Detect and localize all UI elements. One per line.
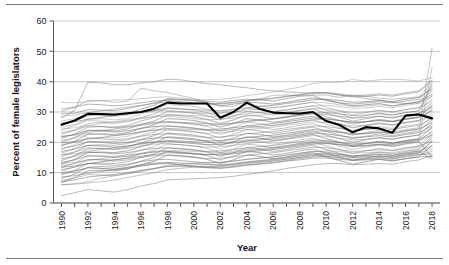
x-tick-label: 1992	[83, 211, 93, 230]
x-axis-title: Year	[237, 242, 257, 253]
y-tick-label: 60	[36, 16, 46, 26]
x-tick-label: 2010	[321, 211, 331, 230]
y-tick-label: 30	[36, 107, 46, 117]
plot-area-wrapper: 0102030405060 19901992199419961998200020…	[0, 0, 449, 265]
y-tick-label: 10	[36, 168, 46, 178]
x-tick-label: 2012	[348, 211, 358, 230]
x-tick-label: 1996	[136, 211, 146, 230]
y-tick-label: 0	[41, 198, 46, 208]
y-tick-label: 50	[36, 47, 46, 57]
line-chart: 0102030405060 19901992199419961998200020…	[0, 0, 449, 265]
x-tick-label: 2018	[427, 211, 437, 230]
y-axis-ticks: 0102030405060	[36, 16, 53, 208]
y-axis-title: Percent of female legislators	[10, 47, 21, 176]
x-tick-label: 1990	[57, 211, 67, 230]
x-tick-label: 2004	[242, 211, 252, 230]
x-tick-label: 2014	[374, 211, 384, 230]
series-lines	[61, 48, 432, 195]
x-tick-label: 1998	[163, 211, 173, 230]
series-line	[61, 154, 432, 182]
x-tick-label: 1994	[110, 211, 120, 230]
y-tick-label: 20	[36, 138, 46, 148]
x-axis-ticks: 1990199219941996199820002002200420062008…	[57, 203, 438, 230]
x-tick-label: 2002	[215, 211, 225, 230]
y-tick-label: 40	[36, 77, 46, 87]
x-tick-label: 2008	[295, 211, 305, 230]
x-tick-label: 2016	[401, 211, 411, 230]
x-tick-label: 2006	[268, 211, 278, 230]
x-tick-label: 2000	[189, 211, 199, 230]
series-line	[61, 83, 432, 112]
figure-container: 0102030405060 19901992199419961998200020…	[0, 0, 449, 265]
